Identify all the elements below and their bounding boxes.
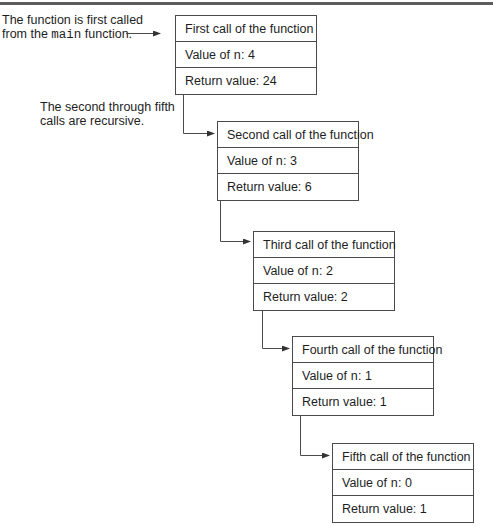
call-box-2: Second call of the function Value of n: …: [217, 121, 359, 201]
call-title: First call of the function: [176, 16, 316, 42]
value-label: Value of: [342, 476, 390, 490]
arrow-icon: [263, 309, 290, 349]
call-return: Return value: 1: [333, 496, 473, 522]
call-title: Third call of the function: [254, 232, 394, 258]
value-label: Value of: [302, 369, 350, 383]
var-name: n: [311, 265, 319, 279]
var-name: n: [350, 370, 358, 384]
var-name: n: [390, 477, 398, 491]
value: : 3: [283, 154, 297, 168]
call-value: Value of n: 3: [218, 148, 358, 174]
value-label: Value of: [227, 154, 275, 168]
value: : 2: [319, 264, 333, 278]
value-label: Value of: [185, 48, 233, 62]
value: : 0: [398, 476, 412, 490]
value: : 4: [241, 48, 255, 62]
value-label: Value of: [263, 264, 311, 278]
call-return: Return value: 2: [254, 284, 394, 310]
arrow-icon: [301, 414, 330, 456]
call-return: Return value: 24: [176, 68, 316, 94]
call-title: Fourth call of the function: [293, 337, 433, 363]
call-value: Value of n: 1: [293, 363, 433, 389]
arrow-icon: [221, 199, 251, 242]
arrow-icon: [184, 94, 215, 134]
call-box-4: Fourth call of the function Value of n: …: [292, 336, 434, 416]
call-box-3: Third call of the function Value of n: 2…: [253, 231, 395, 311]
call-return: Return value: 1: [293, 389, 433, 415]
call-value: Value of n: 0: [333, 470, 473, 496]
call-title: Second call of the function: [218, 122, 358, 148]
var-name: n: [275, 155, 283, 169]
call-box-1: First call of the function Value of n: 4…: [175, 15, 317, 95]
call-title: Fifth call of the function: [333, 444, 473, 470]
value: : 1: [358, 369, 372, 383]
call-value: Value of n: 2: [254, 258, 394, 284]
call-box-5: Fifth call of the function Value of n: 0…: [332, 443, 474, 523]
call-value: Value of n: 4: [176, 42, 316, 68]
var-name: n: [233, 49, 241, 63]
call-return: Return value: 6: [218, 174, 358, 200]
